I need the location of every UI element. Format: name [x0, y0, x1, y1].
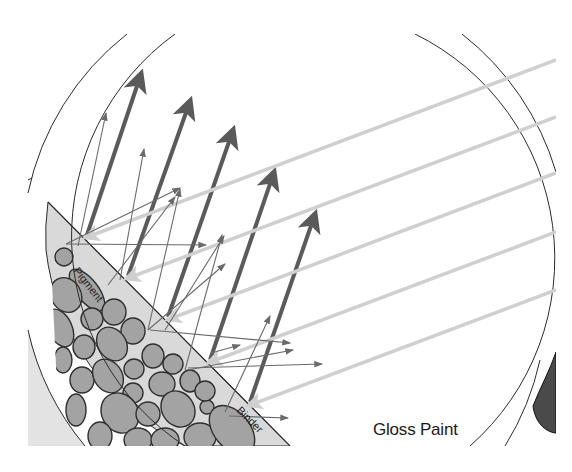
outer-circle-upper-left-arc [28, 34, 127, 193]
corner-dark-shape [533, 352, 556, 433]
diagram-title: Gloss Paint [373, 420, 458, 440]
gloss-paint-diagram: Pigment Binder [0, 0, 572, 472]
outer-circle-upper-right-arc [462, 34, 556, 172]
